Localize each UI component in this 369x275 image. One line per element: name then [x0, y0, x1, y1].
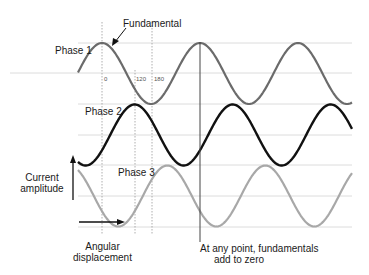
amplitude-arrow-icon: [70, 155, 76, 200]
angular-displacement-label: Angular displacement: [70, 241, 135, 263]
angle-markers: [102, 22, 152, 235]
phase3-label: Phase 3: [118, 167, 155, 178]
current-amplitude-label: Current amplitude: [18, 172, 66, 194]
tick-0: 0: [104, 76, 107, 82]
tick-180: 180: [154, 76, 164, 82]
phase2-label: Phase 2: [85, 106, 122, 117]
fundamental-label: Fundamental: [123, 18, 181, 29]
tick-120: 120: [136, 76, 146, 82]
grid-lines: [10, 43, 352, 227]
sum-note-label: At any point, fundamentals add to zero: [200, 243, 318, 265]
phase1-label: Phase 1: [55, 45, 92, 56]
three-phase-diagram: [0, 0, 369, 275]
